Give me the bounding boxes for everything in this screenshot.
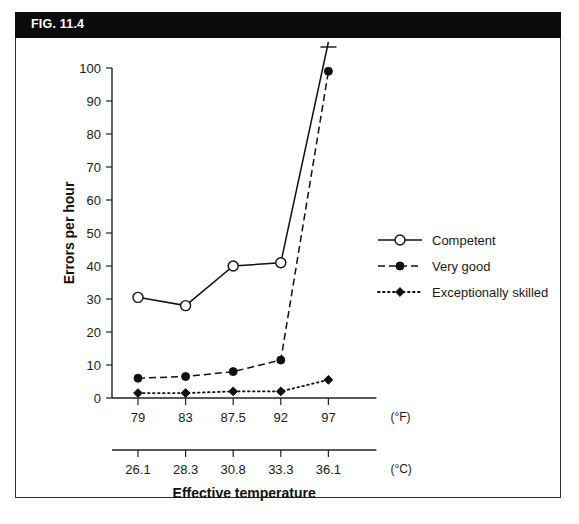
- x-axis-fahrenheit-tick-label: 92: [274, 410, 288, 425]
- data-point-exceptionally-skilled: [276, 387, 285, 396]
- y-axis-tick-label: 70: [87, 160, 101, 175]
- x-axis-fahrenheit-unit-label: (°F): [390, 410, 410, 424]
- legend-swatch-marker-very-good: [396, 262, 404, 270]
- legend-label-exceptionally-skilled: Exceptionally skilled: [432, 285, 548, 300]
- legend-swatch-marker-exceptionally-skilled: [396, 288, 405, 297]
- x-axis-fahrenheit-tick-label: 79: [131, 410, 145, 425]
- x-axis-celsius-tick-label: 36.1: [316, 462, 341, 477]
- data-point-competent: [228, 261, 238, 271]
- y-axis-tick-label: 60: [87, 193, 101, 208]
- legend-label-competent: Competent: [432, 233, 496, 248]
- x-axis-fahrenheit-tick-label: 97: [321, 410, 335, 425]
- data-point-competent: [133, 292, 143, 302]
- data-point-exceptionally-skilled: [134, 389, 143, 398]
- x-axis-celsius-tick-label: 26.1: [125, 462, 150, 477]
- x-axis-celsius-tick-label: 33.3: [268, 462, 293, 477]
- y-axis-tick-label: 30: [87, 292, 101, 307]
- legend-swatch-marker-competent: [395, 235, 405, 245]
- data-point-very-good: [324, 67, 332, 75]
- data-point-very-good: [229, 368, 237, 376]
- x-axis-celsius-tick-label: 28.3: [173, 462, 198, 477]
- data-point-very-good: [277, 356, 285, 364]
- x-axis-fahrenheit-tick-label: 83: [178, 410, 192, 425]
- y-axis-tick-label: 20: [87, 325, 101, 340]
- x-axis-fahrenheit-tick-label: 87.5: [221, 410, 246, 425]
- data-point-competent: [276, 258, 286, 268]
- y-axis-tick-label: 90: [87, 94, 101, 109]
- chart-plot-area: 0102030405060708090100Errors per hour798…: [0, 0, 579, 524]
- y-axis-tick-label: 50: [87, 226, 101, 241]
- y-axis-tick-label: 0: [94, 391, 101, 406]
- data-point-competent: [181, 301, 191, 311]
- data-point-very-good: [182, 373, 190, 381]
- x-axis-celsius-tick-label: 30.8: [221, 462, 246, 477]
- data-point-exceptionally-skilled: [324, 375, 333, 384]
- data-point-exceptionally-skilled: [181, 389, 190, 398]
- data-point-very-good: [134, 374, 142, 382]
- y-axis-tick-label: 100: [79, 61, 101, 76]
- x-axis-title: Effective temperature: [173, 485, 316, 501]
- legend-label-very-good: Very good: [432, 259, 491, 274]
- x-axis-celsius-unit-label: (°C): [390, 462, 411, 476]
- series-line-very-good: [138, 71, 328, 378]
- y-axis-tick-label: 10: [87, 358, 101, 373]
- y-axis-tick-label: 40: [87, 259, 101, 274]
- y-axis-tick-label: 80: [87, 127, 101, 142]
- figure-container: FIG. 11.4 0102030405060708090100Errors p…: [0, 0, 579, 524]
- data-point-exceptionally-skilled: [229, 387, 238, 396]
- y-axis-title: Errors per hour: [61, 181, 77, 284]
